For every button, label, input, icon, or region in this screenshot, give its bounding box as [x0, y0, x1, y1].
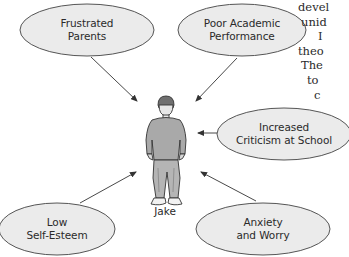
- node-poor-academic-performance: Poor Academic Performance: [187, 17, 297, 43]
- text-line: I: [318, 29, 349, 44]
- node-anxiety-and-worry: Anxiety and Worry: [213, 216, 313, 242]
- node-line: Criticism at School: [222, 134, 346, 147]
- node-line: Frustrated: [37, 17, 137, 30]
- node-line: Anxiety: [213, 216, 313, 229]
- node-line: Increased: [222, 121, 346, 134]
- node-line: Parents: [37, 30, 137, 43]
- central-figure-label: Jake: [150, 205, 180, 217]
- cropped-body-text: devel unid I theo The to c: [298, 0, 349, 102]
- text-line: to: [307, 73, 349, 88]
- arrow-frustrated-parents: [91, 57, 137, 101]
- arrow-anxiety-and-worry: [201, 172, 256, 201]
- node-low-self-esteem: Low Self-Esteem: [7, 216, 107, 242]
- text-line: theo: [298, 44, 349, 59]
- node-line: and Worry: [213, 229, 313, 242]
- text-line: The: [301, 58, 349, 73]
- person-figure-icon: [146, 96, 186, 205]
- node-increased-criticism: Increased Criticism at School: [222, 121, 346, 147]
- arrow-low-self-esteem: [80, 172, 136, 203]
- text-line: unid: [301, 15, 349, 30]
- node-line: Low: [7, 216, 107, 229]
- arrow-poor-academic-performance: [196, 58, 237, 101]
- text-line: c: [314, 88, 349, 103]
- node-line: Self-Esteem: [7, 229, 107, 242]
- text-line: devel: [298, 0, 349, 15]
- node-line: Poor Academic: [187, 17, 297, 30]
- node-frustrated-parents: Frustrated Parents: [37, 17, 137, 43]
- node-line: Performance: [187, 30, 297, 43]
